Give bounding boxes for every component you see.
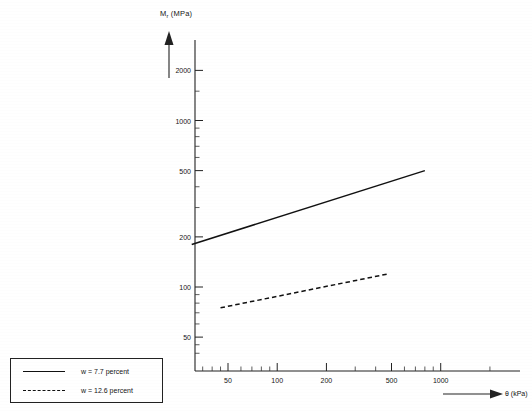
legend-swatch-solid-icon (23, 366, 65, 376)
x-axis-tick-label: 50 (224, 377, 232, 384)
legend-item-series-1: w = 12.6 percent (11, 382, 162, 398)
chart-legend: w = 7.7 percent w = 12.6 percent (10, 358, 163, 403)
y-axis-tick-label: 50 (160, 334, 191, 341)
series-line-0 (192, 171, 425, 245)
y-axis-tick-label: 100 (160, 284, 191, 291)
x-axis-arrow-head-icon (490, 390, 503, 399)
legend-swatch-dashed-icon (23, 385, 65, 395)
y-axis-tick-label: 500 (160, 167, 191, 174)
x-axis-tick-label: 100 (271, 377, 283, 384)
x-axis-tick-label: 200 (321, 377, 333, 384)
legend-label-series-1: w = 12.6 percent (81, 387, 133, 394)
y-axis-tick-label: 2000 (160, 67, 191, 74)
y-axis-tick-label: 200 (160, 233, 191, 240)
x-axis-tick-label: 1000 (433, 377, 449, 384)
plot-area (0, 0, 532, 411)
y-axis-arrow-head-icon (165, 31, 174, 45)
legend-item-series-0: w = 7.7 percent (11, 363, 162, 379)
x-axis-tick-label: 500 (386, 377, 398, 384)
series-line-1 (221, 274, 389, 308)
y-axis-tick-label: 1000 (160, 117, 191, 124)
legend-label-series-0: w = 7.7 percent (81, 368, 129, 375)
chart-figure: Mr (MPa) θ (kPa) 50100200500100020005010… (0, 0, 532, 411)
